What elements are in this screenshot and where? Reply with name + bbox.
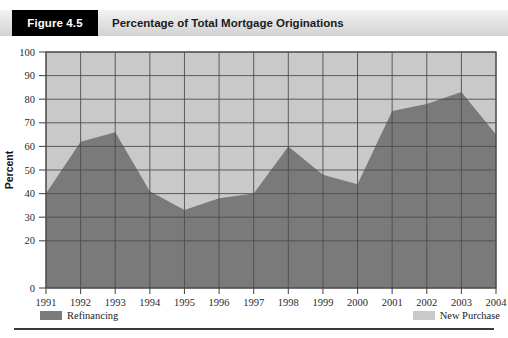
svg-text:1994: 1994	[139, 297, 161, 306]
legend-swatch-refinancing	[40, 311, 62, 320]
area-chart: 02030405060708090100Percent1991199219931…	[0, 44, 508, 306]
svg-text:50: 50	[25, 165, 36, 176]
svg-text:60: 60	[25, 141, 36, 152]
figure-container: Figure 4.5 Percentage of Total Mortgage …	[0, 0, 508, 338]
svg-text:70: 70	[25, 117, 36, 128]
svg-text:1991: 1991	[36, 297, 57, 306]
svg-text:2003: 2003	[451, 297, 472, 306]
figure-number-badge: Figure 4.5	[12, 10, 98, 36]
legend-label-new-purchase: New Purchase	[440, 310, 500, 321]
svg-text:2001: 2001	[382, 297, 403, 306]
svg-text:1996: 1996	[209, 297, 230, 306]
svg-text:2000: 2000	[347, 297, 368, 306]
figure-title: Percentage of Total Mortgage Origination…	[112, 10, 344, 36]
legend-label-refinancing: Refinancing	[67, 310, 118, 321]
svg-text:40: 40	[25, 188, 36, 199]
svg-text:1992: 1992	[70, 297, 91, 306]
svg-text:1995: 1995	[174, 297, 195, 306]
legend-divider	[14, 328, 494, 330]
legend-swatch-new-purchase	[413, 311, 435, 320]
svg-text:2004: 2004	[486, 297, 508, 306]
svg-text:90: 90	[25, 70, 36, 81]
legend-item-new-purchase: New Purchase	[413, 310, 500, 321]
svg-text:100: 100	[19, 47, 35, 58]
legend-item-refinancing: Refinancing	[40, 310, 118, 321]
chart-plot-area: 02030405060708090100Percent1991199219931…	[0, 44, 508, 306]
svg-text:1999: 1999	[312, 297, 333, 306]
svg-text:80: 80	[25, 94, 36, 105]
svg-text:30: 30	[25, 212, 36, 223]
svg-text:1993: 1993	[105, 297, 126, 306]
svg-text:1997: 1997	[243, 297, 264, 306]
svg-text:20: 20	[25, 235, 36, 246]
chart-legend: Refinancing New Purchase	[0, 308, 508, 328]
svg-text:0: 0	[30, 283, 35, 294]
svg-text:Percent: Percent	[3, 150, 15, 189]
svg-text:1998: 1998	[278, 297, 299, 306]
svg-text:2002: 2002	[416, 297, 437, 306]
